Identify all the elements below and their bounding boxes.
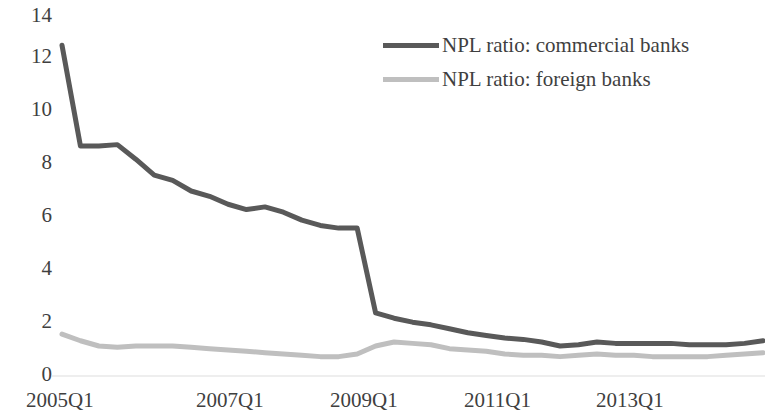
x-tick-2013q1: 2013Q1 xyxy=(596,388,664,412)
legend-swatch-icon-foreign-banks xyxy=(383,77,439,82)
legend-label-commercial-banks: NPL ratio: commercial banks xyxy=(442,33,689,57)
legend-item-commercial-banks[interactable]: NPL ratio: commercial banks xyxy=(383,28,753,62)
y-tick-14: 14 xyxy=(6,5,52,26)
y-tick-12: 12 xyxy=(6,46,52,67)
y-tick-8: 8 xyxy=(6,152,52,173)
y-tick-2: 2 xyxy=(6,311,52,332)
x-tick-2011q1: 2011Q1 xyxy=(464,388,531,412)
x-axis: 2005Q1 2007Q1 2009Q1 2011Q1 2013Q1 xyxy=(0,388,765,418)
y-tick-10: 10 xyxy=(6,99,52,120)
x-tick-2009q1: 2009Q1 xyxy=(330,388,398,412)
legend-item-foreign-banks[interactable]: NPL ratio: foreign banks xyxy=(383,62,753,96)
y-tick-6: 6 xyxy=(6,205,52,226)
legend-swatch-icon-commercial-banks xyxy=(383,43,439,48)
legend-label-foreign-banks: NPL ratio: foreign banks xyxy=(442,67,651,91)
chart-legend: NPL ratio: commercial banks NPL ratio: f… xyxy=(383,28,753,96)
x-tick-2005q1: 2005Q1 xyxy=(26,388,94,412)
y-tick-4: 4 xyxy=(6,258,52,279)
y-axis: 14 12 10 8 6 4 2 0 xyxy=(0,0,52,418)
y-tick-0: 0 xyxy=(6,364,52,385)
npl-ratio-line-chart: 14 12 10 8 6 4 2 0 2005Q1 2007Q1 2009Q1 … xyxy=(0,0,765,418)
x-tick-2007q1: 2007Q1 xyxy=(196,388,264,412)
